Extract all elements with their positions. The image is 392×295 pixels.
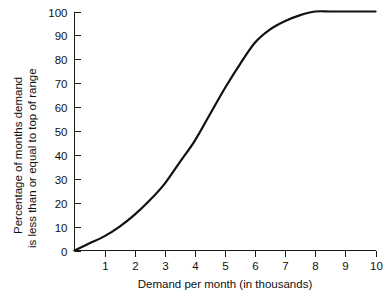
y-tick-label: 30: [55, 174, 68, 186]
y-tick-label: 0: [61, 246, 67, 258]
x-tick-label: 10: [370, 260, 383, 272]
y-tick-label: 80: [55, 54, 68, 66]
x-tick-label: 4: [192, 260, 199, 272]
y-tick-label: 10: [55, 222, 68, 234]
y-tick-label: 50: [55, 126, 68, 138]
y-tick-label: 70: [55, 78, 68, 90]
y-tick-label: 60: [55, 102, 68, 114]
y-axis-title-line1: Percentage of months demand: [12, 77, 24, 234]
y-tick-label: 20: [55, 198, 68, 210]
x-tick-label: 1: [102, 260, 108, 272]
y-tick-label: 100: [48, 7, 67, 19]
x-tick-label: 8: [312, 260, 318, 272]
x-tick-label: 3: [162, 260, 168, 272]
x-tick-label: 2: [132, 260, 138, 272]
x-axis-title: Demand per month (in thousands): [138, 278, 313, 290]
cumulative-demand-chart: 0102030405060708090100 12345678910 Perce…: [0, 0, 392, 295]
y-axis-title-line2: is less than or equal to top of range: [26, 68, 38, 248]
x-tick-label: 6: [252, 260, 258, 272]
x-tick-label: 7: [282, 260, 288, 272]
x-tick-label: 9: [342, 260, 348, 272]
chart-container: 0102030405060708090100 12345678910 Perce…: [0, 0, 392, 295]
y-tick-label: 40: [55, 150, 68, 162]
x-tick-label: 5: [222, 260, 228, 272]
y-tick-label: 90: [55, 30, 68, 42]
